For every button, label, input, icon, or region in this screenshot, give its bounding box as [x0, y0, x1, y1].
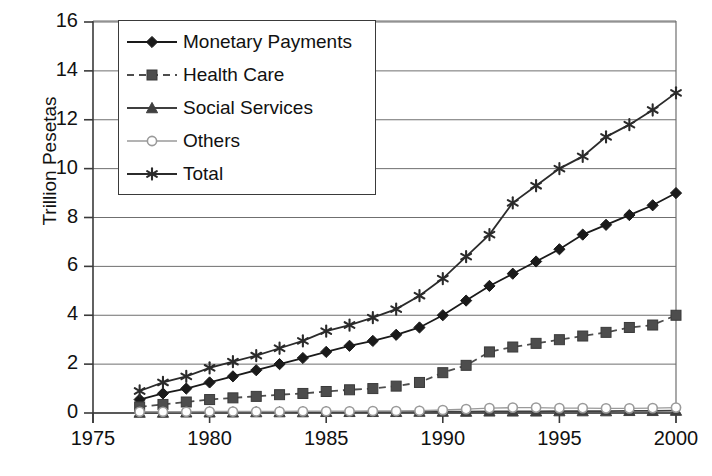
marker-circle: [648, 404, 657, 413]
x-axis-tick-label: 1980: [170, 427, 250, 450]
series-monetary-payments: [134, 187, 682, 405]
marker-circle: [135, 407, 144, 416]
legend-label: Social Services: [179, 97, 313, 119]
marker-square: [578, 331, 588, 341]
marker-diamond: [437, 310, 448, 321]
marker-square: [554, 335, 564, 345]
marker-circle: [147, 136, 156, 145]
series-health-care: [135, 310, 681, 412]
y-axis-tick-label: 14: [32, 58, 78, 81]
marker-asterisk: [671, 87, 681, 98]
marker-asterisk: [368, 312, 378, 323]
y-axis-tick-label: 4: [32, 302, 78, 325]
legend-marker-circle-icon: [125, 126, 179, 156]
legend-label: Others: [179, 130, 240, 152]
marker-circle: [438, 405, 447, 414]
marker-square: [181, 397, 191, 407]
marker-circle: [275, 407, 284, 416]
marker-square: [601, 327, 611, 337]
series-others: [135, 403, 681, 416]
marker-circle: [158, 407, 167, 416]
marker-diamond: [251, 365, 262, 376]
marker-diamond: [391, 329, 402, 340]
marker-circle: [182, 407, 191, 416]
marker-square: [345, 385, 355, 395]
marker-circle: [485, 404, 494, 413]
marker-circle: [531, 403, 540, 412]
legend-item-social-services[interactable]: Social Services: [125, 93, 313, 123]
legend-label: Health Care: [179, 64, 284, 86]
marker-square: [251, 391, 261, 401]
marker-diamond: [507, 268, 518, 279]
marker-square: [438, 368, 448, 378]
chart-legend: Monetary PaymentsHealth CareSocial Servi…: [118, 20, 376, 195]
marker-circle: [345, 407, 354, 416]
marker-diamond: [146, 36, 157, 47]
y-axis-tick-label: 8: [32, 205, 78, 228]
x-axis-tick-label: 1975: [53, 427, 133, 450]
x-axis-tick-label: 2000: [636, 427, 712, 450]
y-axis-tick-label: 10: [32, 156, 78, 179]
legend-marker-triangle-icon: [125, 93, 179, 123]
marker-asterisk: [624, 119, 634, 130]
marker-asterisk: [648, 104, 658, 115]
marker-circle: [415, 406, 424, 415]
marker-asterisk: [391, 304, 401, 315]
marker-diamond: [344, 340, 355, 351]
marker-circle: [392, 406, 401, 415]
marker-diamond: [600, 219, 611, 230]
marker-square: [648, 320, 658, 330]
marker-diamond: [530, 256, 541, 267]
marker-square: [624, 322, 634, 332]
legend-item-others[interactable]: Others: [125, 126, 240, 156]
marker-asterisk: [415, 290, 425, 301]
marker-circle: [298, 407, 307, 416]
legend-item-monetary-payments[interactable]: Monetary Payments: [125, 27, 352, 57]
marker-circle: [322, 407, 331, 416]
marker-circle: [671, 403, 680, 412]
x-axis-tick-label: 1985: [286, 427, 366, 450]
legend-item-total[interactable]: Total: [125, 159, 223, 189]
marker-circle: [462, 404, 471, 413]
marker-circle: [205, 407, 214, 416]
marker-asterisk: [135, 385, 145, 396]
marker-diamond: [624, 209, 635, 220]
marker-circle: [578, 404, 587, 413]
marker-circle: [252, 407, 261, 416]
marker-diamond: [414, 322, 425, 333]
y-axis-tick-label: 2: [32, 351, 78, 374]
marker-square: [147, 70, 157, 80]
marker-circle: [625, 404, 634, 413]
x-axis-tick-label: 1995: [519, 427, 599, 450]
marker-square: [275, 390, 285, 400]
marker-diamond: [484, 280, 495, 291]
legend-label: Monetary Payments: [179, 31, 352, 53]
marker-circle: [228, 407, 237, 416]
legend-label: Total: [179, 163, 223, 185]
marker-asterisk: [531, 180, 541, 191]
marker-circle: [555, 404, 564, 413]
marker-diamond: [181, 383, 192, 394]
chart-figure: Trillion Pesetas 0246810121416 197519801…: [0, 0, 712, 476]
marker-asterisk: [298, 335, 308, 346]
marker-square: [391, 381, 401, 391]
marker-diamond: [367, 335, 378, 346]
legend-marker-asterisk-icon: [125, 159, 179, 189]
marker-square: [531, 338, 541, 348]
marker-diamond: [274, 359, 285, 370]
marker-diamond: [461, 295, 472, 306]
marker-circle: [508, 403, 517, 412]
legend-marker-square-icon: [125, 60, 179, 90]
marker-circle: [601, 404, 610, 413]
marker-square: [508, 342, 518, 352]
legend-item-health-care[interactable]: Health Care: [125, 60, 284, 90]
series-line: [140, 315, 676, 407]
marker-diamond: [204, 377, 215, 388]
marker-square: [461, 360, 471, 370]
marker-diamond: [647, 200, 658, 211]
marker-circle: [368, 406, 377, 415]
y-axis-tick-label: 6: [32, 253, 78, 276]
x-axis-tick-label: 1990: [403, 427, 483, 450]
marker-diamond: [157, 388, 168, 399]
y-axis-tick-label: 16: [32, 9, 78, 32]
